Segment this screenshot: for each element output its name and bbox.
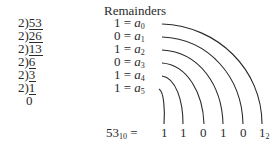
- binary-digit-a0: 12: [259, 125, 270, 141]
- result-decimal: 5310 =: [106, 125, 138, 141]
- arc-a4: [162, 76, 183, 124]
- decimal-number: 53: [106, 125, 119, 140]
- arc-a2: [162, 50, 223, 124]
- equals-sign: =: [130, 125, 137, 140]
- binary-base: 2: [266, 132, 270, 141]
- arc-a5: [159, 89, 164, 124]
- binary-digit-a3: 0: [200, 125, 207, 141]
- decimal-base: 10: [119, 132, 127, 141]
- binary-digit-a1: 0: [240, 125, 247, 141]
- binary-digit-a5: 1: [161, 125, 168, 141]
- remainder-arcs: [0, 0, 280, 149]
- binary-digit-a4: 1: [180, 125, 187, 141]
- binary-digit-a2: 1: [220, 125, 227, 141]
